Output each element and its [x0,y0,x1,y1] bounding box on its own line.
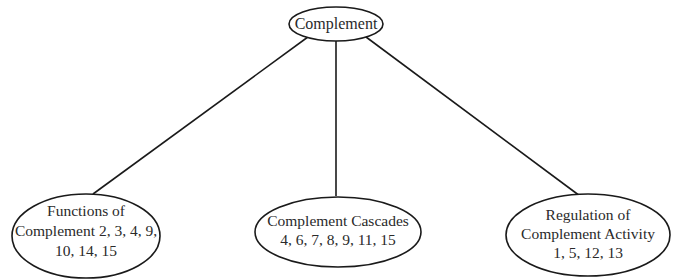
cascades-node: Complement Cascades 4, 6, 7, 8, 9, 11, 1… [255,197,421,267]
cascades-node-line-2: 4, 6, 7, 8, 9, 11, 15 [280,231,396,248]
functions-node-line-2: Complement 2, 3, 4, 9, [15,222,157,239]
functions-node-line-1: Functions of [47,202,126,219]
regulation-node-line-3: 1, 5, 12, 13 [553,244,623,261]
functions-node: Functions of Complement 2, 3, 4, 9, 10, … [12,194,160,278]
root-node-label: Complement [295,15,378,33]
regulation-node-line-1: Regulation of [546,206,632,223]
connector-root-to-functions [93,34,312,194]
root-node: Complement [289,7,383,41]
functions-node-line-3: 10, 14, 15 [55,242,117,259]
regulation-node-line-2: Complement Activity [521,225,655,242]
regulation-node: Regulation of Complement Activity 1, 5, … [506,194,670,276]
connector-root-to-regulation [362,34,580,196]
concept-diagram: Complement Functions of Complement 2, 3,… [0,0,674,279]
cascades-node-line-1: Complement Cascades [267,212,409,229]
